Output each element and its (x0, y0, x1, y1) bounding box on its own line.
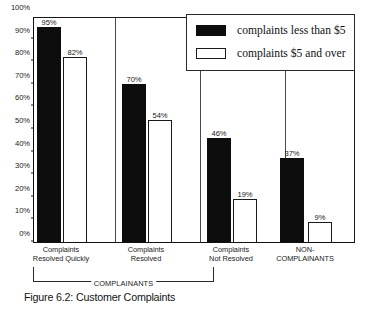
y-tick-label-80: 80% (15, 48, 34, 57)
figure-caption: Figure 6.2: Customer Complaints (24, 291, 175, 303)
group-separator-0 (115, 18, 116, 242)
y-tick-mark-60 (31, 105, 35, 106)
bar-value-label-1-1: 54% (153, 111, 168, 120)
figure-customer-complaints: 0%10%20%30%40%50%60%70%80%90%100% 95%82%… (0, 0, 368, 314)
legend-label-0: complaints less than $5 (237, 24, 346, 37)
y-tick-label-0: 0% (19, 229, 34, 238)
bracket-line-left (33, 281, 97, 282)
chart-legend: complaints less than $5 complaints $5 an… (186, 14, 355, 71)
bar-2-0: 46% (207, 138, 231, 242)
bar-1-0: 70% (122, 84, 146, 242)
bar-1-1: 54% (148, 120, 172, 242)
x-category-label-0: Complaints Resolved Quickly (22, 245, 100, 264)
legend-label-1: complaints $5 and over (237, 47, 346, 60)
bar-value-label-3-1: 9% (315, 213, 326, 222)
bar-value-label-0-0: 95% (42, 18, 57, 27)
y-tick-mark-10 (31, 218, 35, 219)
y-tick-label-20: 20% (15, 183, 34, 192)
y-tick-label-10: 10% (15, 206, 34, 215)
legend-item-0: complaints less than $5 (196, 24, 346, 37)
bracket-line-right (150, 281, 214, 282)
x-category-label-1: Complaints Resolved (107, 245, 185, 264)
y-tick-label-40: 40% (15, 138, 34, 147)
x-category-label-2: Complaints Not Resolved (192, 245, 270, 264)
bar-value-label-2-0: 46% (212, 129, 227, 138)
bar-value-label-0-1: 82% (68, 48, 83, 57)
y-tick-mark-80 (31, 60, 35, 61)
bar-0-1: 82% (63, 57, 87, 242)
y-tick-label-50: 50% (15, 116, 34, 125)
y-tick-mark-20 (31, 195, 35, 196)
bar-value-label-3-0: 37% (285, 149, 300, 158)
y-tick-mark-90 (31, 37, 35, 38)
y-tick-mark-30 (31, 173, 35, 174)
y-tick-mark-50 (31, 128, 35, 129)
x-category-label-3: NON- COMPLAINANTS (266, 245, 344, 264)
y-tick-mark-0 (31, 241, 35, 242)
y-tick-label-90: 90% (15, 25, 34, 34)
bracket-right-tick (213, 267, 214, 282)
complainants-bracket: COMPLAINANTS (33, 267, 214, 282)
bracket-left-tick (33, 267, 34, 282)
bar-3-0: 37% (280, 158, 304, 242)
bar-3-1: 9% (308, 222, 332, 242)
y-tick-label-100: 100% (11, 3, 34, 12)
legend-swatch-hollow (196, 48, 226, 59)
legend-item-1: complaints $5 and over (196, 47, 346, 60)
y-tick-label-60: 60% (15, 93, 34, 102)
bar-2-1: 19% (233, 199, 257, 242)
bar-0-0: 95% (37, 27, 61, 242)
legend-swatch-filled (196, 25, 226, 36)
y-tick-mark-70 (31, 82, 35, 83)
y-tick-mark-40 (31, 150, 35, 151)
bracket-label: COMPLAINANTS (91, 279, 157, 288)
bar-value-label-1-0: 70% (127, 75, 142, 84)
y-tick-label-30: 30% (15, 161, 34, 170)
y-tick-label-70: 70% (15, 70, 34, 79)
bar-value-label-2-1: 19% (238, 190, 253, 199)
